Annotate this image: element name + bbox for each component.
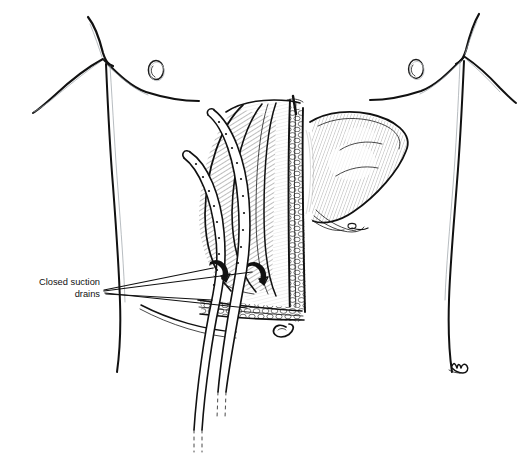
drain-label-line1: Closed suction — [39, 277, 100, 287]
drain-label-line2: drains — [75, 289, 101, 299]
surgical-illustration: Closed suction drains — [0, 0, 517, 456]
illustration-canvas: Closed suction drains — [0, 0, 517, 456]
